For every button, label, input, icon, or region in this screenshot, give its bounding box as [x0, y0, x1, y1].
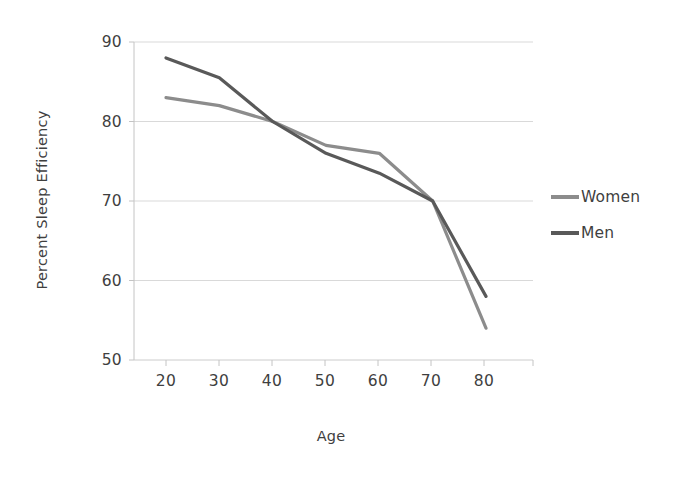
gridlines	[134, 42, 533, 360]
legend-label-men: Men	[581, 224, 614, 242]
series-line-men	[166, 58, 486, 297]
legend-swatch-men-icon	[551, 231, 579, 235]
legend-item-men: Men	[551, 224, 614, 242]
legend-label-women: Women	[581, 188, 640, 206]
legend-swatch-women-icon	[551, 195, 579, 199]
sleep-efficiency-line-chart: Percent Sleep Efficiency 90 80 70 60 50 …	[0, 0, 678, 482]
x-axis-ticks	[166, 360, 533, 366]
y-axis-line-group	[129, 42, 134, 360]
legend-item-women: Women	[551, 188, 640, 206]
